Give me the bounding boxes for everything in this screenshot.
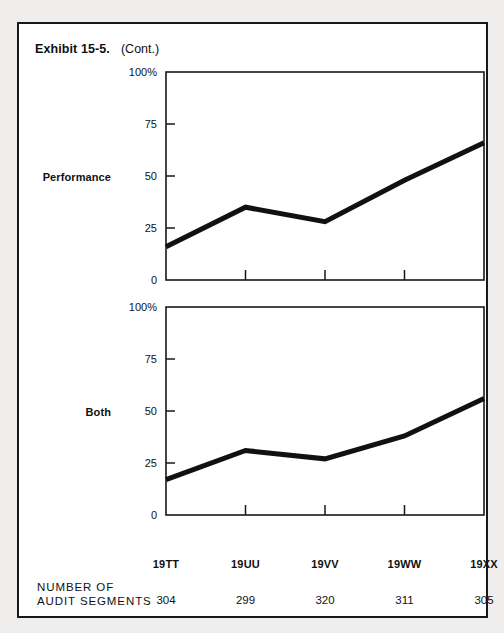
audit-segment-count: 304 xyxy=(156,594,175,606)
chart-both-label: Both xyxy=(19,406,111,418)
chart-performance-plot: 0255075100% xyxy=(114,64,489,289)
x-axis-category-label: 19UU xyxy=(231,558,260,570)
x-axis-category-labels: 19TT19UU19VV19WW19XX xyxy=(19,558,486,574)
exhibit-frame: Exhibit 15-5.(Cont.) Performance 0255075… xyxy=(17,22,488,618)
y-axis-tick-label: 75 xyxy=(145,353,157,365)
y-axis-tick-label: 100% xyxy=(129,66,157,78)
data-series-line xyxy=(166,143,484,247)
audit-segment-count: 305 xyxy=(474,594,493,606)
y-axis-tick-label: 50 xyxy=(145,405,157,417)
page-title: Exhibit 15-5.(Cont.) xyxy=(35,39,159,57)
y-axis-tick-label: 25 xyxy=(145,222,157,234)
audit-segments-caption-line1: NUMBER OF xyxy=(37,581,114,593)
chart-both-plot: 0255075100% xyxy=(114,299,489,524)
exhibit-number: Exhibit 15-5. xyxy=(35,42,110,56)
audit-segment-count: 299 xyxy=(236,594,255,606)
y-axis-tick-label: 0 xyxy=(151,274,157,286)
page-background: Exhibit 15-5.(Cont.) Performance 0255075… xyxy=(0,0,504,633)
y-axis-tick-label: 75 xyxy=(145,118,157,130)
y-axis-tick-label: 25 xyxy=(145,457,157,469)
audit-segment-count: 311 xyxy=(395,594,413,606)
x-axis-category-label: 19VV xyxy=(311,558,339,570)
x-axis-category-label: 19WW xyxy=(388,558,422,570)
data-series-line xyxy=(166,399,484,480)
y-axis-tick-label: 100% xyxy=(129,301,157,313)
x-axis-category-label: 19XX xyxy=(470,558,498,570)
audit-segments-caption: NUMBER OF AUDIT SEGMENTS xyxy=(37,580,152,608)
exhibit-continued-note: (Cont.) xyxy=(121,42,159,56)
audit-segment-count: 320 xyxy=(315,594,334,606)
audit-segments-caption-line2: AUDIT SEGMENTS xyxy=(37,594,152,608)
x-axis-category-label: 19TT xyxy=(153,558,179,570)
y-axis-tick-label: 50 xyxy=(145,170,157,182)
audit-segments-row: NUMBER OF AUDIT SEGMENTS 304299320311305 xyxy=(19,580,486,620)
plot-frame xyxy=(166,307,484,515)
plot-frame xyxy=(166,72,484,280)
chart-performance-label: Performance xyxy=(19,171,111,183)
y-axis-tick-label: 0 xyxy=(151,509,157,521)
